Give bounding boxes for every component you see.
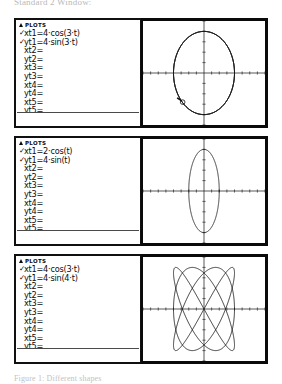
triangle-up-icon — [19, 141, 23, 145]
plot-editor[interactable]: PLOTS ✓xt1=4·cos(3·t)✓yt1=4·sin(4·t) xt2… — [14, 254, 141, 364]
entry-line[interactable] — [17, 230, 139, 243]
calculator-panel: PLOTS ✓xt1=4·cos(3·t)✓yt1=4·sin(3·t) xt2… — [14, 18, 268, 128]
graph-view[interactable] — [141, 254, 268, 364]
equation-list: ✓xt1=4·cos(3·t)✓yt1=4·sin(3·t) xt2= yt2=… — [16, 29, 140, 112]
plots-header-label: PLOTS — [25, 22, 46, 29]
plots-header: PLOTS — [16, 256, 140, 265]
graph-view[interactable] — [141, 136, 268, 246]
graph-view[interactable] — [141, 18, 268, 128]
entry-line[interactable] — [17, 112, 139, 125]
plots-header-label: PLOTS — [25, 140, 46, 147]
page-heading: Standard 2 Window: — [14, 0, 264, 7]
triangle-up-icon — [19, 259, 23, 263]
triangle-up-icon — [19, 23, 23, 27]
figure-caption: Figure 1: Different shapes — [14, 374, 266, 384]
plots-header: PLOTS — [16, 138, 140, 147]
calculator-panel: PLOTS ✓xt1=2·cos(t)✓yt1=4·sin(t) xt2= yt… — [14, 136, 268, 246]
plot-editor[interactable]: PLOTS ✓xt1=4·cos(3·t)✓yt1=4·sin(3·t) xt2… — [14, 18, 141, 128]
plots-header: PLOTS — [16, 20, 140, 29]
plots-header-label: PLOTS — [25, 258, 46, 265]
calculator-panel: PLOTS ✓xt1=4·cos(3·t)✓yt1=4·sin(4·t) xt2… — [14, 254, 268, 364]
equation-list: ✓xt1=2·cos(t)✓yt1=4·sin(t) xt2= yt2= xt3… — [16, 147, 140, 230]
equation-list: ✓xt1=4·cos(3·t)✓yt1=4·sin(4·t) xt2= yt2=… — [16, 265, 140, 348]
trace-cursor[interactable] — [177, 98, 185, 105]
entry-line[interactable] — [17, 348, 139, 361]
plot-editor[interactable]: PLOTS ✓xt1=2·cos(t)✓yt1=4·sin(t) xt2= yt… — [14, 136, 141, 246]
